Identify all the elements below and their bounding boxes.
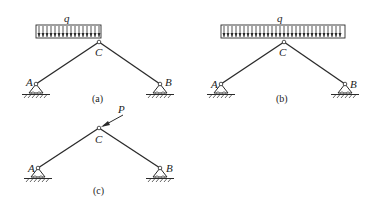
member-CB: [99, 128, 160, 168]
concentrated-load-P: P: [101, 103, 125, 127]
member-CB: [284, 42, 345, 84]
figure-b: q A C B (b): [207, 12, 359, 105]
joint-label-A: A: [25, 76, 33, 88]
arrow-head-icon: [101, 121, 110, 127]
member-AC: [38, 128, 99, 168]
load-label-q: q: [277, 12, 283, 24]
joint-label-A: A: [210, 78, 218, 90]
load-arrows: [224, 26, 340, 37]
load-arrows: [39, 26, 99, 37]
joint-label-B: B: [350, 78, 357, 90]
caption-c: (c): [93, 185, 104, 197]
member-CB: [99, 42, 160, 84]
joint-label-B: B: [166, 162, 173, 174]
distributed-load-q: q: [221, 12, 345, 38]
hinge-C: [97, 126, 101, 130]
member-AC: [221, 42, 284, 84]
distributed-load-q: q: [36, 12, 101, 38]
caption-b: (b): [276, 93, 288, 105]
joint-label-C: C: [95, 133, 103, 145]
member-AC: [36, 42, 99, 84]
load-label-q: q: [64, 12, 70, 24]
joint-label-A: A: [27, 162, 35, 174]
load-label-P: P: [117, 103, 125, 115]
joint-label-C: C: [95, 46, 103, 58]
joint-label-B: B: [165, 76, 172, 88]
figure-c: P A C B (c): [24, 103, 174, 197]
three-hinged-frame-diagrams: q A C B (a): [0, 0, 374, 211]
figure-a: q A C B (a): [22, 12, 174, 105]
joint-label-C: C: [279, 46, 287, 58]
hinge-C: [97, 40, 101, 44]
hinge-C: [282, 40, 286, 44]
caption-a: (a): [92, 93, 103, 105]
